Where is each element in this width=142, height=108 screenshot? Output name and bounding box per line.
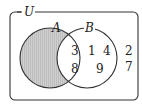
- set-a-label: A: [51, 21, 61, 35]
- set-b-label: B: [84, 21, 94, 35]
- element-a-and-b: 3: [71, 44, 79, 58]
- element-outside: 2: [125, 44, 133, 58]
- element-b-only: 4: [103, 44, 111, 58]
- venn-diagram: U A B 3 8 1 4 9 2 7: [0, 0, 142, 108]
- element-a-and-b: 8: [71, 62, 79, 76]
- element-b-only: 1: [88, 44, 96, 58]
- universal-set-label: U: [24, 5, 35, 19]
- element-b-only: 9: [96, 62, 104, 76]
- element-outside: 7: [125, 60, 133, 74]
